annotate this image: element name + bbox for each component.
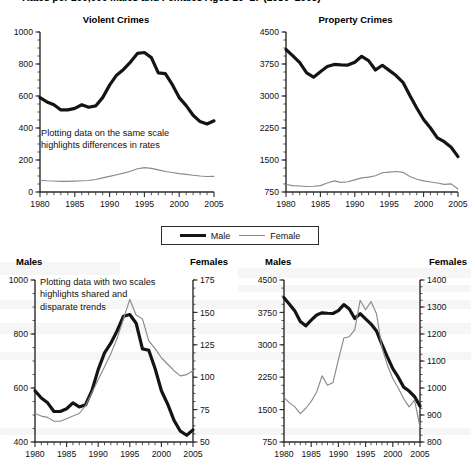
y-tick-label-right: 800 [427,437,442,447]
y-tick-label-right: 125 [200,340,215,350]
x-tick-label: 2000 [170,199,189,209]
y-tick-label-right: 100 [200,372,215,382]
y-tick-label-right: 50 [200,437,210,447]
male-line-swatch-icon [180,234,206,237]
x-tick-label: 2005 [448,199,467,209]
x-tick-label: 2000 [152,449,171,459]
chart-panel-violent-same-scale: Violent Crimes 0200400600800100019801985… [0,14,232,222]
x-tick-label: 2005 [410,449,429,459]
x-tick-label: 1995 [135,199,154,209]
series-line-female [35,299,193,421]
y-tick-label: 400 [19,123,34,133]
y-tick-label: 1500 [258,405,277,415]
y-tick-label-right: 1200 [427,329,446,339]
y-tick-label: 1000 [14,27,33,37]
y-tick-label: 2250 [258,372,277,382]
y-tick-label: 4500 [258,275,277,285]
x-tick-label: 1990 [329,449,348,459]
chart-svg: 7501500225030003750450080090010001100120… [237,256,471,467]
chart-panel-property-same-scale: Property Crimes 750150022503000375045001… [240,14,471,222]
plot-area: 0200400600800100019801985199019952000200… [0,14,232,222]
x-tick-label: 1980 [276,199,295,209]
y-tick-label: 800 [19,59,34,69]
x-tick-label: 2005 [183,449,202,459]
plot-area: 7501500225030003750450080090010001100120… [237,256,471,467]
x-tick-label: 1985 [311,199,330,209]
annot-same-scale: Plotting data on the same scale highligh… [41,127,201,152]
x-tick-label: 1995 [356,449,375,459]
y-tick-label: 2250 [260,123,279,133]
y-tick-label: 3000 [260,91,279,101]
y-tick-label: 750 [263,437,278,447]
x-tick-label: 2000 [383,449,402,459]
y-tick-label-right: 1100 [427,356,446,366]
y-tick-label: 200 [19,155,34,165]
legend: Male Female [161,226,319,245]
series-line-male [286,49,458,156]
y-tick-label: 4500 [260,27,279,37]
x-tick-label: 2005 [204,199,223,209]
y-tick-label-right: 175 [200,275,215,285]
y-tick-label-right: 1400 [427,275,446,285]
y-tick-label: 750 [265,187,280,197]
x-tick-label: 1990 [100,199,119,209]
chart-svg: 7501500225030003750450019801985199019952… [240,14,471,222]
y-tick-label: 600 [14,383,29,393]
x-tick-label: 1995 [380,199,399,209]
x-tick-label: 1980 [274,449,293,459]
y-tick-label-right: 75 [200,405,210,415]
x-tick-label: 1990 [345,199,364,209]
chart-svg: 0200400600800100019801985199019952000200… [0,14,232,222]
y-tick-label-right: 900 [427,410,442,420]
x-tick-label: 2000 [414,199,433,209]
x-tick-label: 1980 [30,199,49,209]
series-line-female [284,300,420,427]
series-line-female [286,172,458,189]
chart-panel-property-two-scales: Males Females 75015002250300037504500800… [237,256,471,467]
female-line-swatch-icon [239,235,265,236]
x-tick-label: 1995 [120,449,139,459]
x-tick-label: 1980 [25,449,44,459]
y-tick-label: 800 [14,329,29,339]
series-line-male [35,315,193,436]
x-tick-label: 1985 [65,199,84,209]
y-tick-label: 3000 [258,340,277,350]
page-title: Rates per 100,000 Males and Females Ages… [22,0,321,3]
y-tick-label: 600 [19,91,34,101]
series-line-female [40,168,214,182]
y-tick-label: 1000 [9,275,28,285]
y-tick-label: 3750 [260,59,279,69]
legend-label-female: Female [270,231,300,241]
y-tick-label-right: 1000 [427,383,446,393]
figure-title-strip: Rates per 100,000 Males and Females Ages… [0,0,471,7]
legend-entry-female: Female [239,231,300,241]
y-tick-label: 0 [28,187,33,197]
x-tick-label: 1990 [89,449,108,459]
x-tick-label: 1985 [302,449,321,459]
legend-label-male: Male [211,231,231,241]
y-tick-label: 3750 [258,308,277,318]
y-tick-label: 1500 [260,155,279,165]
annot-two-scales: Plotting data with two scales highlights… [40,276,190,313]
figure-root: Rates per 100,000 Males and Females Ages… [0,0,471,467]
legend-entry-male: Male [180,231,231,241]
x-tick-label: 1985 [57,449,76,459]
series-line-male [40,52,214,124]
plot-area: 7501500225030003750450019801985199019952… [240,14,471,222]
y-tick-label-right: 1300 [427,302,446,312]
y-tick-label: 400 [14,437,29,447]
y-tick-label-right: 150 [200,308,215,318]
